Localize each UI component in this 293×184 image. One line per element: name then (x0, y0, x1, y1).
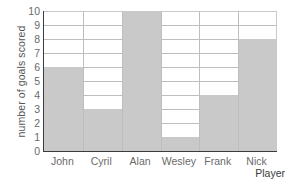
vertical-gridline (161, 11, 162, 151)
vertical-gridline (199, 11, 200, 151)
y-tick-label: 5 (18, 75, 40, 87)
bar-wesley (161, 137, 199, 151)
bar-cyril (83, 109, 122, 151)
y-tick-label: 3 (18, 103, 40, 115)
bar-john (44, 67, 83, 151)
bar-nick (238, 39, 277, 151)
y-tick-label: 4 (18, 89, 40, 101)
vertical-gridline (276, 11, 277, 151)
x-tick-label-frank: Frank (198, 154, 237, 169)
y-tick-label: 6 (18, 61, 40, 73)
y-tick-label: 1 (18, 131, 40, 143)
x-tick-label-alan: Alan (121, 154, 160, 169)
x-axis-tick-labels: JohnCyrilAlanWesleyFrankNick (43, 154, 276, 169)
y-tick-label: 7 (18, 47, 40, 59)
y-tick-label: 8 (18, 33, 40, 45)
bar-frank (199, 95, 238, 151)
y-tick-label: 9 (18, 19, 40, 31)
y-tick-label: 10 (18, 5, 40, 17)
plot-area (43, 11, 277, 152)
x-tick-label-cyril: Cyril (82, 154, 121, 169)
y-tick-label: 0 (18, 145, 40, 157)
x-tick-label-john: John (43, 154, 82, 169)
x-axis-title: Player (255, 167, 285, 180)
y-axis-tick-labels: 012345678910 (18, 11, 40, 151)
bar-alan (122, 11, 161, 151)
vertical-gridline (238, 11, 239, 151)
y-tick-label: 2 (18, 117, 40, 129)
bar-chart: number of goals scored 012345678910 John… (0, 0, 293, 184)
vertical-gridline (83, 11, 84, 151)
x-tick-label-wesley: Wesley (160, 154, 199, 169)
vertical-gridline (122, 11, 123, 151)
plot-inner (44, 11, 277, 151)
